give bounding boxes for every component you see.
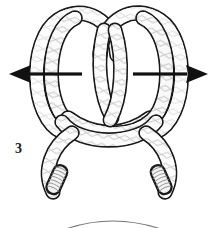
background-arc xyxy=(66,221,161,228)
knot-diagram-figure: 3 xyxy=(0,0,216,228)
knot-illustration xyxy=(0,0,216,228)
step-number-label: 3 xyxy=(15,142,22,156)
